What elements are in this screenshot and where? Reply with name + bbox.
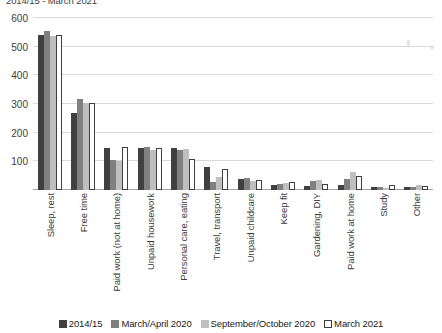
bar-group [33, 18, 66, 190]
bar-group [233, 18, 266, 190]
bar-group [400, 18, 433, 190]
legend-label: September/October 2020 [211, 318, 315, 329]
x-axis-label-cell: Paid work (not at home) [100, 191, 133, 303]
x-axis-label: Study [377, 193, 388, 217]
x-axis-label: Other [411, 193, 422, 216]
bar-group [300, 18, 333, 190]
bar[interactable] [289, 182, 295, 190]
x-axis-label-cell: Travel, transport [200, 191, 233, 303]
x-axis-label: Free time [77, 193, 88, 232]
bar[interactable] [122, 147, 128, 190]
bar-group [166, 18, 199, 190]
bar[interactable] [56, 35, 62, 190]
y-axis-tick-label: 400 [0, 70, 28, 81]
x-axis-label: Keep fit [277, 193, 288, 224]
legend-label: March 2021 [334, 318, 383, 329]
plot-area [33, 18, 433, 190]
x-axis-label-cell: Personal care, eating [166, 191, 199, 303]
bar[interactable] [189, 159, 195, 190]
bar[interactable] [322, 184, 328, 190]
bar-group [66, 18, 99, 190]
x-axis-label: Paid work (not at home) [111, 193, 122, 292]
bar[interactable] [89, 103, 95, 190]
x-axis-label-cell: Keep fit [266, 191, 299, 303]
chart-title: 2014/15 - March 2021 [6, 0, 97, 6]
x-axis-label-cell: Study [366, 191, 399, 303]
bar[interactable] [389, 185, 395, 190]
legend-label: March/April 2020 [121, 318, 191, 329]
x-axis-label-cell: Gardening, DIY [300, 191, 333, 303]
bar-group [100, 18, 133, 190]
bar-chart: 2014/15 - March 2021 100200300400500600 … [0, 0, 442, 333]
x-axis-label-cell: Paid work at home [333, 191, 366, 303]
x-axis-label: Sleep, rest [44, 193, 55, 237]
legend-label: 2014/15 [69, 318, 103, 329]
x-axis-label-cell: Unpaid housework [133, 191, 166, 303]
bar-group [366, 18, 399, 190]
legend-item[interactable]: 2014/15 [59, 318, 103, 329]
x-axis-label-cell: Sleep, rest [33, 191, 66, 303]
x-axis-label: Travel, transport [211, 193, 222, 260]
legend-item[interactable]: September/October 2020 [201, 318, 315, 329]
x-axis-label-cell: Other [400, 191, 433, 303]
bar-group [200, 18, 233, 190]
y-axis-tick-label: 200 [0, 127, 28, 138]
bar-group [266, 18, 299, 190]
y-axis-tick-label: 100 [0, 156, 28, 167]
x-axis-label-cell: Unpaid childcare [233, 191, 266, 303]
x-axis-labels: Sleep, restFree timePaid work (not at ho… [33, 191, 433, 303]
bar-group [333, 18, 366, 190]
y-axis-tick-label: 500 [0, 41, 28, 52]
x-axis-label: Unpaid housework [144, 193, 155, 270]
chart-legend: 2014/15March/April 2020September/October… [0, 318, 442, 329]
legend-swatch-icon [324, 320, 332, 328]
x-axis-label: Paid work at home [344, 193, 355, 270]
y-axis-tick-label: 300 [0, 99, 28, 110]
legend-swatch-icon [59, 320, 67, 328]
bar-groups [33, 18, 433, 190]
bar[interactable] [156, 148, 162, 190]
legend-swatch-icon [201, 320, 209, 328]
bar[interactable] [256, 180, 262, 190]
bar[interactable] [356, 176, 362, 190]
x-axis-label: Gardening, DIY [311, 193, 322, 257]
bar[interactable] [422, 186, 428, 190]
y-axis-tick-label: 600 [0, 13, 28, 24]
x-axis-label: Personal care, eating [177, 193, 188, 281]
legend-item[interactable]: March/April 2020 [111, 318, 191, 329]
legend-item[interactable]: March 2021 [324, 318, 383, 329]
legend-swatch-icon [111, 320, 119, 328]
bar[interactable] [222, 169, 228, 191]
x-axis-label: Unpaid childcare [244, 193, 255, 262]
x-axis-label-cell: Free time [66, 191, 99, 303]
bar-group [133, 18, 166, 190]
